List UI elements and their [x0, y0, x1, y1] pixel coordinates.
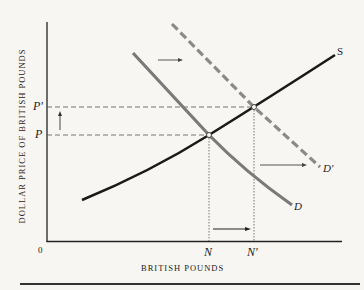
- quantity-right-arrow: [213, 227, 251, 231]
- demand-curve: [133, 53, 292, 205]
- supply-label: S: [337, 45, 343, 57]
- shift-arrow-lower: [260, 163, 307, 167]
- y-axis-label: DOLLAR PRICE OF BRITISH POUNDS: [17, 49, 27, 224]
- demand-label: D: [294, 200, 302, 212]
- equilibrium-point-new: [252, 105, 257, 110]
- x-axis-label: BRITISH POUNDS: [141, 263, 224, 273]
- equilibrium-point-initial: [207, 133, 212, 138]
- shift-arrow-upper: [158, 58, 183, 62]
- supply-curve: [82, 55, 335, 200]
- n-label: N: [204, 245, 212, 260]
- supply-demand-chart: DOLLAR PRICE OF BRITISH POUNDS BRITISH P…: [0, 0, 364, 290]
- p-prime-label: P': [33, 99, 43, 114]
- p-label: P: [35, 127, 42, 142]
- n-prime-label: N': [247, 245, 258, 260]
- bottom-rule: [20, 283, 360, 285]
- chart-plot: [0, 0, 364, 290]
- price-up-arrow: [58, 111, 62, 130]
- origin-label: 0: [38, 245, 43, 255]
- demand-shifted-label: D': [323, 162, 333, 174]
